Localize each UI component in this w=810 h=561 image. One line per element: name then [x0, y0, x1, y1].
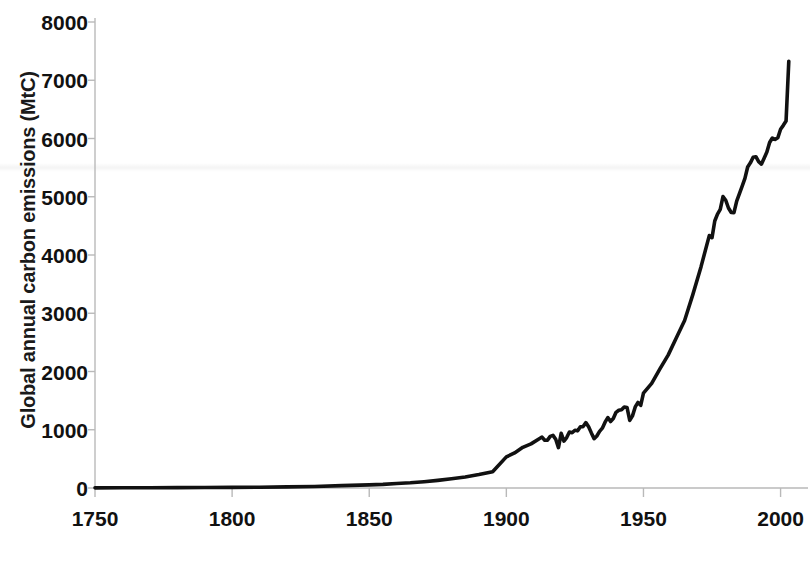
chart-figure: Global annual carbon emissions (MtC) 010…: [0, 0, 810, 561]
y-axis-ticks: [88, 22, 95, 488]
emissions-line: [95, 61, 789, 488]
plot-area: [0, 0, 810, 561]
